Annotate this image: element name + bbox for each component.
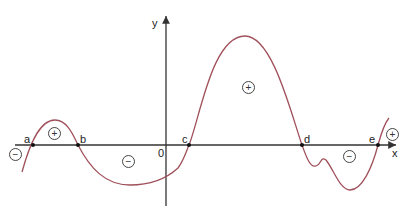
function-sign-diagram: y x 0 a b c d e − + − + − + xyxy=(0,0,412,213)
function-curve xyxy=(22,36,389,190)
zero-point-e xyxy=(376,143,380,147)
zero-label-b: b xyxy=(80,134,86,145)
graph-canvas xyxy=(0,0,412,213)
x-axis-label: x xyxy=(392,148,398,159)
sign-plus-icon: + xyxy=(48,127,61,140)
zero-label-a: a xyxy=(24,134,30,145)
zero-label-d: d xyxy=(304,134,310,145)
zero-label-e: e xyxy=(369,134,375,145)
y-axis-label: y xyxy=(152,18,158,29)
sign-minus-icon: − xyxy=(9,148,22,161)
zero-point-a xyxy=(31,143,35,147)
sign-minus-icon: − xyxy=(122,155,135,168)
origin-label: 0 xyxy=(158,148,164,159)
sign-minus-icon: − xyxy=(343,150,356,163)
sign-plus-icon: + xyxy=(242,81,255,94)
sign-plus-icon: + xyxy=(386,128,399,141)
zero-label-c: c xyxy=(182,134,188,145)
